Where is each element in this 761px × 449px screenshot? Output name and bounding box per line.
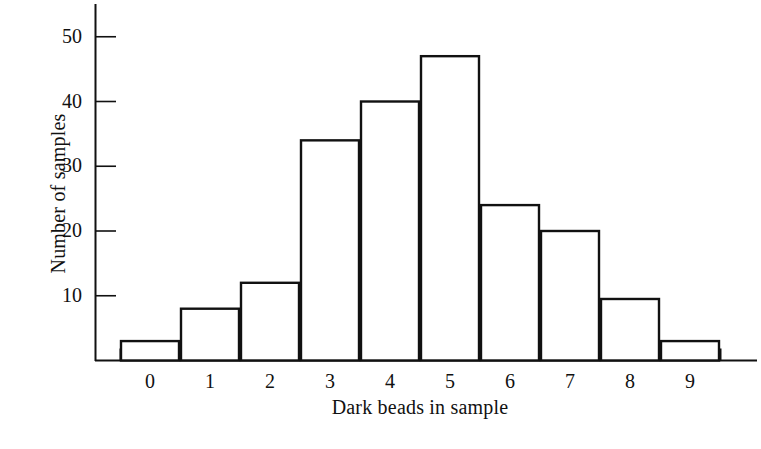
histogram-bar [481, 205, 539, 360]
x-tick-label: 0 [120, 371, 180, 391]
histogram-bar [541, 231, 599, 361]
y-axis-title: Number of samples [47, 54, 70, 334]
x-tick-label: 7 [540, 371, 600, 391]
y-tick-label: 50 [30, 26, 82, 46]
x-tick-label: 4 [360, 371, 420, 391]
histogram-bars [121, 56, 719, 360]
x-tick-label: 2 [240, 371, 300, 391]
x-axis-title: Dark beads in sample [120, 396, 720, 419]
histogram-figure: 1020304050 0123456789 Number of samples … [0, 0, 761, 449]
x-tick-label: 5 [420, 371, 480, 391]
histogram-bar [241, 283, 299, 361]
histogram-bar [301, 140, 359, 360]
y-axis-ticks [96, 37, 116, 296]
histogram-bar [601, 299, 659, 361]
x-tick-label: 9 [660, 371, 720, 391]
histogram-bar [661, 341, 719, 360]
x-tick-label: 6 [480, 371, 540, 391]
histogram-bar [121, 341, 179, 360]
histogram-bar [181, 309, 239, 361]
x-tick-label: 1 [180, 371, 240, 391]
histogram-bar [361, 102, 419, 361]
histogram-bar [421, 56, 479, 360]
x-tick-label: 8 [600, 371, 660, 391]
x-tick-label: 3 [300, 371, 360, 391]
